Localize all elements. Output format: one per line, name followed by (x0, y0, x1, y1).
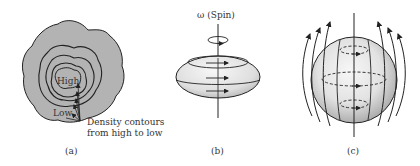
caption-c: (c) (347, 146, 359, 156)
cloud-outline (22, 21, 124, 123)
annotation-line-1: Density contours (87, 117, 165, 127)
label-low: Low (53, 108, 72, 118)
caption-a: (a) (65, 146, 77, 156)
panel-c: (c) (303, 13, 406, 156)
panel-b: ω (Spin) (b) (176, 10, 260, 156)
annotation-line-2: from high to low (87, 128, 163, 138)
field-line (303, 34, 312, 116)
label-high: High (57, 76, 79, 86)
label-spin: ω (Spin) (197, 10, 235, 20)
figure: High Low Density contours from high to l… (0, 0, 420, 166)
caption-b: (b) (211, 146, 224, 156)
field-line (396, 34, 405, 116)
panel-a: High Low Density contours from high to l… (22, 21, 164, 156)
